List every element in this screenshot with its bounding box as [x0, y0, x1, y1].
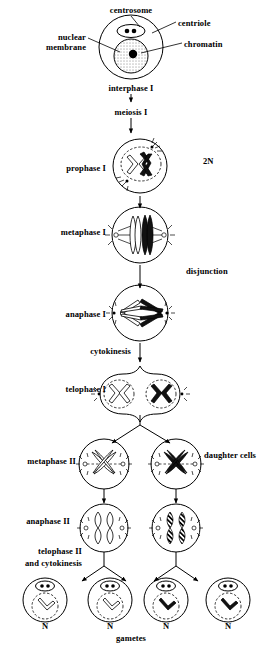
cell-metaphase-2-right [148, 439, 204, 503]
cell-anaphase-2-left [77, 504, 131, 581]
centrosome-shape [117, 25, 145, 38]
chromosome-telophase-right [151, 384, 172, 403]
centriole-pole-right [162, 233, 166, 237]
centriole-pole-left [114, 233, 118, 237]
cell-metaphase-2-left [76, 439, 132, 503]
chromosomes-anaphase-1-left [120, 300, 142, 326]
cell-interphase-1 [88, 15, 182, 79]
cell-anaphase-1 [106, 285, 175, 362]
gamete-1 [23, 578, 67, 622]
aster-anaphase-1-left [106, 302, 116, 324]
cell-telophase-1 [91, 366, 190, 443]
chromatids-anaphase-2-left [95, 512, 113, 544]
meiosis-diagram: centrosome centriole nuclear membrane ch… [0, 0, 261, 653]
chromosomes-metaphase-2-left [92, 450, 116, 474]
gamete-2 [88, 578, 132, 622]
chromosome-pair-prophase [127, 152, 152, 176]
gamete-4 [206, 578, 250, 622]
chromosomes-anaphase-1-right [140, 299, 163, 327]
centriole-dot-left [125, 29, 130, 34]
chromosomes-metaphase-1 [130, 215, 153, 255]
nucleolus [129, 50, 137, 58]
cell-prophase-1 [113, 138, 167, 208]
diagram-graphics [0, 0, 261, 653]
gamete-3 [144, 578, 188, 622]
chromatids-anaphase-2-right [167, 512, 185, 544]
centriole-dot-right [132, 29, 137, 34]
cell-anaphase-2-right [149, 504, 203, 581]
cell-metaphase-1 [105, 207, 175, 288]
chromosome-telophase-left [109, 384, 130, 403]
chromosomes-metaphase-2-right [164, 450, 188, 474]
